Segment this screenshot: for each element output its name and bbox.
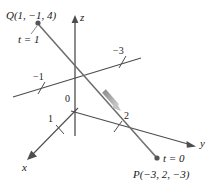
y-axis-arrowhead (187, 141, 197, 148)
tick-label-origin: 0 (65, 94, 70, 104)
y-axis (71, 111, 196, 148)
tick-label-neg-one: −1 (33, 72, 44, 82)
tick-label-neg-three: −3 (113, 46, 124, 56)
tick-y-2 (114, 121, 122, 132)
tick-neg-3 (119, 56, 126, 68)
point-P-leader (138, 137, 156, 156)
tick-label-two: 2 (124, 111, 129, 121)
point-P-dot (154, 155, 159, 160)
point-P-parameter-label: t = 0 (163, 153, 184, 164)
y-axis-label: y (200, 138, 205, 149)
point-Q-parameter-label: t = 1 (18, 34, 39, 45)
z-axis-arrowhead (72, 15, 79, 23)
z-axis (72, 15, 79, 136)
point-Q-label: Q(1, −1, 4) (6, 10, 56, 21)
x-axis-label: x (22, 162, 27, 173)
point-Q-dot (35, 20, 40, 25)
vector-line-figure: Q(1, −1, 4) t = 1 z y x −1 0 1 2 −3 t = … (0, 0, 215, 186)
point-P-label: P(−3, 2, −3) (133, 169, 189, 180)
tick-label-one: 1 (48, 114, 53, 124)
z-axis-label: z (80, 12, 84, 23)
